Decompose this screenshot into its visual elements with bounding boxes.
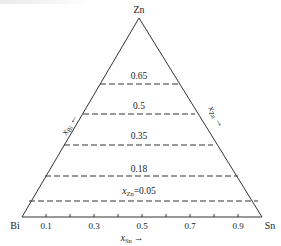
tick-label-07: 0.7 [184, 221, 196, 231]
iso-label-005: xZn=0.05 [121, 186, 156, 197]
vertex-label-zn: Zn [133, 4, 144, 15]
iso-label-005-value: =0.05 [134, 186, 156, 196]
vertex-label-bi: Bi [10, 220, 20, 231]
iso-label-018: 0.18 [131, 164, 148, 174]
vertex-label-sn: Sn [265, 220, 276, 231]
svg-text:xBi←: xBi← [59, 113, 80, 138]
tick-label-03: 0.3 [88, 221, 100, 231]
tick-label-01: 0.1 [40, 221, 51, 231]
tick-label-05: 0.5 [136, 221, 148, 231]
iso-label-035: 0.35 [131, 131, 148, 141]
tick-label-09: 0.9 [232, 221, 244, 231]
axis-label-sn: xSn→ [120, 233, 144, 244]
axis-label-bi: xBi← [59, 113, 80, 138]
iso-label-050: 0.5 [133, 101, 145, 111]
ternary-diagram: Zn Bi Sn 0.65 0.5 0.35 0.18 xZn=0.05 0.1… [0, 0, 281, 246]
svg-text:xZn→: xZn→ [205, 103, 227, 129]
iso-label-065: 0.65 [131, 71, 148, 81]
axis-label-zn: xZn→ [205, 103, 227, 129]
